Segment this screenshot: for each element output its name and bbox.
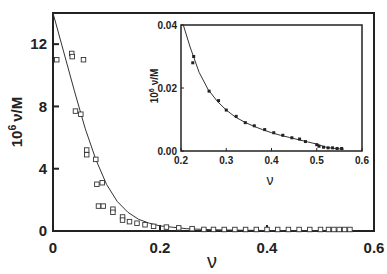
data-point	[244, 121, 247, 124]
x-tick-label: 0.2	[174, 155, 188, 166]
x-tick-label: 0.6	[364, 239, 385, 256]
data-point	[84, 152, 89, 157]
data-point	[143, 223, 148, 228]
data-point	[304, 140, 307, 143]
data-point	[337, 227, 342, 232]
data-point	[265, 227, 270, 232]
data-point	[79, 112, 84, 117]
data-point	[192, 55, 195, 58]
y-tick-label: 0	[39, 222, 47, 239]
data-point	[100, 180, 105, 185]
data-point	[275, 227, 280, 232]
data-point	[225, 109, 228, 112]
x-tick-label: 0.6	[355, 155, 369, 166]
x-tick-label: 0.4	[257, 239, 279, 256]
y-tick-label: 0.04	[158, 20, 178, 31]
data-point	[73, 109, 78, 114]
data-point	[322, 146, 325, 149]
data-point	[135, 221, 140, 226]
data-point	[332, 227, 337, 232]
chart-figure: 0481200.20.40.6ν106ν/M 0.000.020.040.20.…	[0, 0, 387, 274]
x-tick-label: 0.5	[310, 155, 324, 166]
data-point	[84, 148, 89, 153]
data-point	[272, 131, 275, 134]
y-tick-label: 12	[30, 35, 47, 52]
data-point	[318, 227, 323, 232]
data-point	[176, 226, 181, 231]
data-point	[211, 227, 216, 232]
data-point	[81, 57, 86, 62]
y-tick-label: 0.02	[158, 83, 178, 94]
x-tick-label: 0	[49, 239, 57, 256]
data-point	[151, 224, 156, 229]
data-point	[95, 182, 100, 187]
data-point	[263, 128, 266, 131]
y-tick-label: 4	[39, 160, 48, 177]
data-point	[340, 147, 343, 150]
data-point	[222, 227, 227, 232]
data-point	[208, 90, 211, 93]
data-point	[342, 227, 347, 232]
data-point	[348, 227, 353, 232]
data-point	[253, 124, 256, 127]
data-point	[217, 99, 220, 102]
data-point	[70, 54, 75, 59]
data-point	[243, 227, 248, 232]
inset-frame	[181, 25, 362, 151]
data-point	[233, 227, 238, 232]
data-point	[297, 227, 302, 232]
data-point	[290, 136, 293, 139]
y-axis-title: 106ν/M	[6, 97, 25, 148]
data-point	[54, 57, 59, 62]
data-point	[235, 115, 238, 118]
data-point	[286, 227, 291, 232]
y-tick-label: 8	[39, 98, 47, 115]
data-point	[120, 218, 125, 223]
data-point	[326, 227, 331, 232]
data-point	[327, 146, 330, 149]
data-point	[101, 204, 106, 209]
x-axis-title: ν	[207, 250, 217, 272]
x-tick-label: 0.2	[150, 239, 171, 256]
data-point	[202, 227, 207, 232]
data-point	[254, 227, 258, 232]
data-point	[308, 227, 313, 232]
data-point	[111, 210, 116, 215]
data-point	[191, 61, 194, 64]
data-point	[96, 204, 101, 209]
data-point	[94, 157, 99, 162]
x-tick-label: 0.3	[219, 155, 233, 166]
data-point	[127, 219, 132, 224]
data-point	[298, 138, 301, 141]
x-axis-title: ν	[267, 172, 274, 188]
data-point	[164, 225, 169, 230]
data-point	[318, 145, 321, 148]
x-tick-label: 0.4	[265, 155, 279, 166]
data-point	[336, 147, 339, 150]
data-point	[331, 146, 334, 149]
data-point	[190, 226, 195, 231]
y-axis-title: 106ν/M	[148, 69, 160, 104]
data-point	[281, 134, 284, 137]
